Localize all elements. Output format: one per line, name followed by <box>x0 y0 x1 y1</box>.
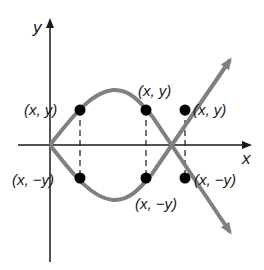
point-label-upper-right: (x, y) <box>193 102 226 117</box>
point-label-lower-left: (x, −y) <box>12 172 54 187</box>
x-axis-label: x <box>242 150 251 167</box>
point-label-lower-right: (x, −y) <box>194 172 236 187</box>
graph-canvas <box>0 0 264 270</box>
y-axis-label: y <box>33 19 42 36</box>
point-label-upper-middle: (x, y) <box>138 83 171 98</box>
point-label-upper-left: (x, y) <box>24 102 57 117</box>
point-label-lower-middle: (x, −y) <box>135 196 177 211</box>
